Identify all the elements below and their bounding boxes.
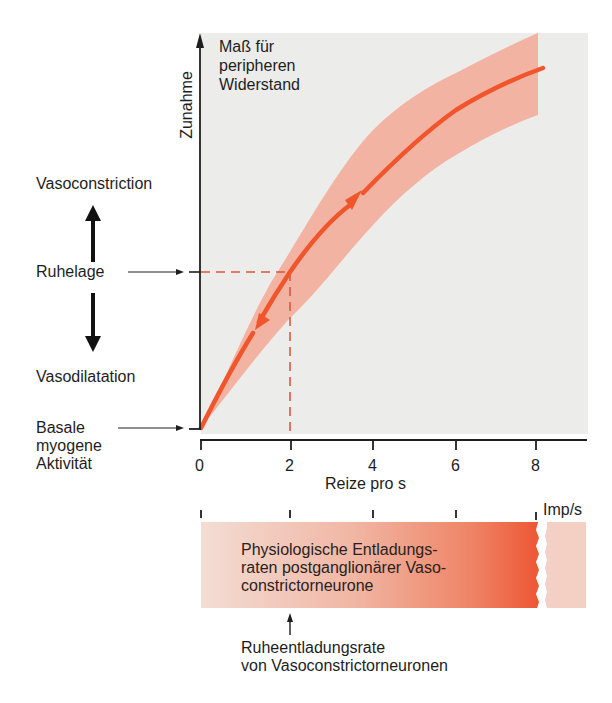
- x-tick-label-6: 6: [451, 456, 460, 475]
- bar-text-line-2: raten postganglionärer Vaso-: [241, 559, 446, 577]
- basale-pointer-arrow-icon: [176, 425, 184, 431]
- y-axis-label: Zunahme: [177, 67, 196, 143]
- x-axis-label: Reize pro s: [325, 474, 406, 493]
- vasodilatation-arrow-icon: [85, 336, 101, 352]
- x-axis-ticks: [201, 440, 536, 450]
- ruhelage-label: Ruhelage: [36, 262, 105, 281]
- plot-annotation-line-3: Widerstand: [219, 75, 300, 94]
- plot-annotation-line-2: peripheren: [219, 56, 296, 75]
- vasoconstriction-label: Vasoconstriction: [36, 174, 152, 193]
- bar-text-line-1: Physiologische Entladungs-: [241, 541, 438, 559]
- chart-graphic: [0, 0, 612, 703]
- bar-unit-label: Imp/s: [543, 500, 582, 519]
- x-tick-label-2: 2: [285, 456, 294, 475]
- x-tick-label-8: 8: [531, 456, 540, 475]
- basale-label-line-3: Aktivität: [36, 454, 92, 473]
- vasoconstriction-arrow-icon: [85, 205, 101, 221]
- discharge-rate-bar-tail: [545, 522, 586, 608]
- resting-rate-caption-line-1: Ruheentladungsrate: [241, 638, 385, 657]
- ruhelage-pointer-arrow-icon: [176, 269, 184, 275]
- plot-annotation-line-1: Maß für: [219, 37, 274, 56]
- bar-text-line-3: constrictorneurone: [241, 577, 374, 595]
- basale-label-line-2: myogene: [36, 436, 102, 455]
- x-tick-label-4: 4: [368, 456, 377, 475]
- resting-rate-arrow-icon: [287, 613, 293, 622]
- bar-scale-ticks: [201, 510, 536, 520]
- vasodilatation-label: Vasodilatation: [36, 367, 135, 386]
- basale-label-line-1: Basale: [36, 418, 85, 437]
- resting-rate-caption-line-2: von Vasoconstrictorneuronen: [241, 656, 448, 675]
- x-tick-label-0: 0: [195, 456, 204, 475]
